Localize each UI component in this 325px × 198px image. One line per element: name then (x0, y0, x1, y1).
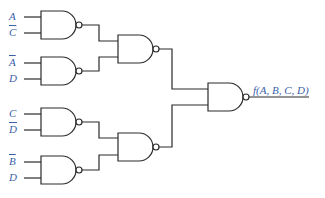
nand-gate-3 (24, 108, 118, 138)
input-label-c: C (9, 108, 16, 119)
logic-circuit (0, 0, 325, 198)
output-label: f(A, B, C, D) (253, 85, 309, 96)
nand-gate-2 (24, 57, 118, 85)
input-label-d-bar: D (9, 124, 17, 135)
nand-gate-6 (118, 105, 208, 161)
nand-gate-1 (24, 11, 118, 41)
input-label-c-bar: C (9, 27, 16, 38)
input-label-d: D (9, 73, 17, 84)
input-label-a-bar: A (9, 57, 16, 68)
nand-gate-4 (24, 155, 118, 184)
input-label-b-bar: B (9, 156, 16, 167)
nand-gate-5 (118, 35, 208, 89)
input-label-d-2: D (9, 172, 17, 183)
input-label-a: A (9, 11, 16, 22)
